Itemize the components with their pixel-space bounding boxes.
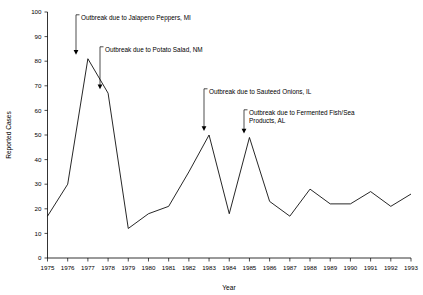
x-tick-label: 1982 [182,264,196,271]
annotation-label: Outbreak due to Jalapeno Peppers, MI [81,14,191,22]
x-tick-label: 1993 [404,264,418,271]
chart-container: 0102030405060708090100 19751976197719781… [0,0,423,295]
annotation-label: Outbreak due to Potato Salad, NM [105,46,203,53]
x-tick-label: 1992 [384,264,398,271]
x-tick-label: 1991 [364,264,378,271]
x-tick-label: 1977 [81,264,95,271]
reported-cases-line-chart: 0102030405060708090100 19751976197719781… [0,0,423,295]
x-tick-label: 1980 [142,264,156,271]
chart-background [0,0,423,295]
y-tick-label: 50 [35,131,42,138]
y-tick-label: 90 [35,33,42,40]
x-tick-label: 1987 [283,264,297,271]
y-tick-label: 20 [35,205,42,212]
y-tick-label: 10 [35,230,42,237]
x-tick-label: 1976 [61,264,75,271]
x-tick-label: 1986 [263,264,277,271]
annotation-label: Outbreak due to Fermented Fish/Sea [249,109,355,116]
y-tick-label: 30 [35,180,42,187]
x-tick-label: 1985 [243,264,257,271]
y-tick-label: 0 [38,254,42,261]
x-tick-label: 1979 [121,264,135,271]
x-tick-label: 1990 [344,264,358,271]
y-axis-title: Reported Cases [5,110,13,158]
y-tick-label: 70 [35,82,42,89]
annotation-label: Outbreak due to Sauteed Onions, IL [209,88,312,95]
annotation-label-line2: Products, AL [249,117,286,124]
x-tick-label: 1983 [202,264,216,271]
x-tick-label: 1988 [303,264,317,271]
y-tick-label: 40 [35,156,42,163]
x-tick-label: 1978 [101,264,115,271]
x-tick-label: 1984 [222,264,236,271]
y-tick-label: 80 [35,57,42,64]
y-tick-label: 60 [35,107,42,114]
x-axis-title: Year [222,284,236,291]
x-tick-label: 1975 [41,264,55,271]
y-tick-label: 100 [31,8,42,15]
x-tick-label: 1981 [162,264,176,271]
x-tick-label: 1989 [323,264,337,271]
